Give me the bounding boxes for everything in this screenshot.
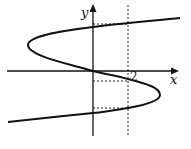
y-axis-label: y (80, 5, 89, 20)
x-axis-label: x (170, 72, 178, 87)
y-axis-arrow-icon (90, 4, 97, 12)
function-graph: y x 2 (0, 0, 191, 149)
x-tick-label-2: 2 (130, 70, 138, 84)
s-curve (8, 18, 180, 122)
